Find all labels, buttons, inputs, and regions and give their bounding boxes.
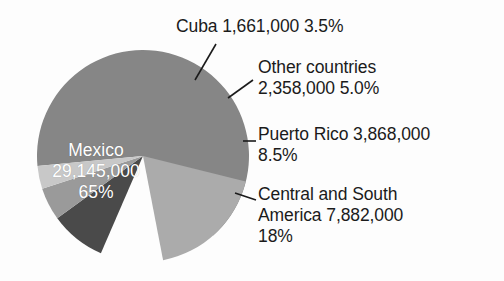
callout-label-cuba: Cuba 1,661,000 3.5% (176, 16, 343, 37)
callout-label-other-countries: Other countries 2,358,000 5.0% (258, 57, 379, 99)
pie-chart-figure: Cuba 1,661,000 3.5% Other countries 2,35… (0, 0, 504, 281)
leader-line-other-countries (228, 80, 253, 98)
callout-label-puerto-rico: Puerto Rico 3,868,000 8.5% (258, 124, 430, 166)
callout-label-central-south-america: Central and South America 7,882,000 18% (258, 184, 403, 247)
slice-label-mexico: Mexico 29,145,000 65% (28, 140, 164, 203)
